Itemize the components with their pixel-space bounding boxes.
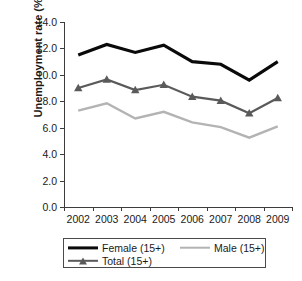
legend-swatch-male bbox=[180, 242, 210, 254]
x-tick-mark bbox=[264, 207, 265, 211]
legend-label-female: Female (15+) bbox=[102, 242, 165, 254]
x-tick-label: 2009 bbox=[266, 213, 289, 225]
y-tick-label: 8.0 bbox=[42, 95, 57, 107]
x-tick-mark bbox=[150, 207, 151, 211]
x-tick-label: 2008 bbox=[238, 213, 261, 225]
x-tick-label: 2005 bbox=[152, 213, 175, 225]
y-tick-label: 10.0 bbox=[37, 69, 57, 81]
legend-entry-total: Total (15+) bbox=[68, 255, 180, 267]
x-tick-mark bbox=[121, 207, 122, 211]
legend-entry-male: Male (15+) bbox=[180, 242, 264, 254]
legend-row-1: Female (15+) Male (15+) bbox=[68, 241, 265, 254]
y-tick-label: 6.0 bbox=[42, 122, 57, 134]
x-tick-label: 2003 bbox=[95, 213, 118, 225]
series-line-female-15 bbox=[78, 44, 278, 80]
data-point-marker bbox=[103, 75, 111, 82]
x-tick-mark bbox=[64, 207, 65, 211]
unemployment-rate-line-chart: Unemployment rate (%) 0.02.04.06.08.010.… bbox=[0, 0, 302, 281]
x-tick-mark bbox=[93, 207, 94, 211]
x-tick-label: 2006 bbox=[181, 213, 204, 225]
x-tick-mark bbox=[292, 207, 293, 211]
y-tick-label: 0.0 bbox=[42, 201, 57, 213]
legend-label-total: Total (15+) bbox=[102, 255, 152, 267]
y-tick-label: 2.0 bbox=[42, 175, 57, 187]
x-tick-label: 2007 bbox=[209, 213, 232, 225]
data-point-marker bbox=[274, 94, 282, 101]
chart-legend: Female (15+) Male (15+) Total (15+) bbox=[63, 238, 266, 268]
x-tick-mark bbox=[207, 207, 208, 211]
legend-label-male: Male (15+) bbox=[214, 242, 264, 254]
legend-entry-female: Female (15+) bbox=[68, 242, 180, 254]
y-tick-label: 4.0 bbox=[42, 148, 57, 160]
x-tick-label: 2004 bbox=[124, 213, 147, 225]
y-tick-label: 14.0 bbox=[37, 16, 57, 28]
legend-swatch-total bbox=[68, 255, 98, 267]
x-tick-mark bbox=[235, 207, 236, 211]
x-tick-mark bbox=[178, 207, 179, 211]
series-container bbox=[64, 22, 292, 207]
plot-area: 0.02.04.06.08.010.012.014.0 200220032004… bbox=[64, 22, 292, 207]
x-tick-label: 2002 bbox=[67, 213, 90, 225]
triangle-marker-icon bbox=[79, 257, 87, 264]
series-line-male-15 bbox=[78, 103, 278, 137]
y-tick-label: 12.0 bbox=[37, 42, 57, 54]
series-line-total-15 bbox=[78, 79, 278, 113]
legend-swatch-female bbox=[68, 242, 98, 254]
legend-row-2: Total (15+) bbox=[68, 254, 265, 267]
